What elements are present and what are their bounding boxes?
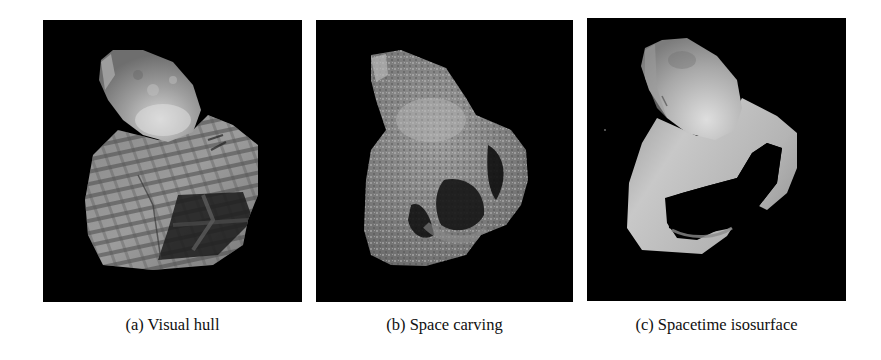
spacetime-isosurface-render [587,18,846,301]
caption-spacetime-isosurface: (c) Spacetime isosurface [587,314,846,336]
panel-visual-hull-image [43,20,302,302]
caption-visual-hull: (a) Visual hull [43,314,302,336]
visual-hull-render [43,20,302,302]
figure-three-panel-comparison: (a) Visual hull (b) Space carving (c) Sp… [0,0,881,360]
space-carving-render [316,20,573,302]
panel-spacetime-isosurface-image [587,18,846,301]
panel-space-carving-image [316,20,573,302]
caption-space-carving: (b) Space carving [316,314,573,336]
